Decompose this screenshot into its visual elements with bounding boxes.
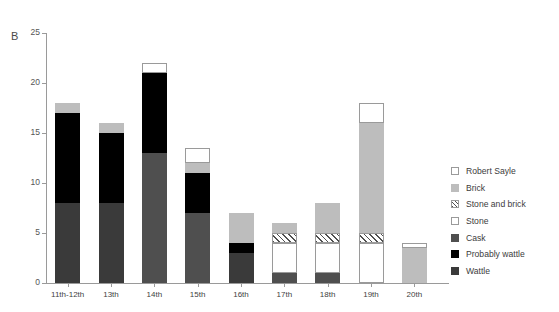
y-tick-label: 10: [20, 177, 40, 188]
legend-label: Stone and brick: [466, 199, 526, 209]
bar-segment-brick[interactable]: [55, 103, 80, 113]
legend-swatch-cask-icon: [451, 234, 459, 242]
y-tick-label: 5: [20, 227, 40, 238]
bar-segment-stone[interactable]: [185, 148, 210, 163]
y-tick-mark: [42, 133, 46, 134]
bar-segment-cask[interactable]: [272, 273, 297, 283]
legend-item-wattle[interactable]: Wattle: [451, 263, 526, 280]
x-tick-mark: [154, 283, 155, 287]
y-tick-mark: [42, 33, 46, 34]
x-tick-mark: [371, 283, 372, 287]
bar-segment-wattle[interactable]: [99, 203, 124, 283]
bar-segment-stone[interactable]: [359, 243, 384, 283]
bar-segment-brick[interactable]: [315, 203, 340, 233]
legend-swatch-probably-wattle-icon: [451, 250, 459, 258]
bar-19th[interactable]: [359, 33, 384, 283]
y-tick-mark: [42, 83, 46, 84]
y-tick-label: 15: [20, 127, 40, 138]
bar-13th[interactable]: [99, 33, 124, 283]
x-tick-mark: [111, 283, 112, 287]
legend-item-brick[interactable]: Brick: [451, 180, 526, 197]
bar-segment-cask[interactable]: [185, 213, 210, 283]
legend-label: Stone: [466, 216, 488, 226]
panel-label: B: [11, 30, 19, 42]
plot-area: 0510152025: [46, 33, 436, 283]
x-axis-line: [46, 283, 449, 284]
bar-segment-robert-sayle[interactable]: [359, 103, 384, 123]
y-tick-mark: [42, 283, 46, 284]
legend-item-cask[interactable]: Cask: [451, 229, 526, 246]
bar-segment-brick[interactable]: [402, 248, 427, 283]
bar-segment-stone[interactable]: [315, 243, 340, 273]
bar-20th[interactable]: [402, 33, 427, 283]
chart-panel: B 0510152025 11th-12th13th14th15th16th17…: [0, 0, 559, 312]
legend-item-stone[interactable]: Stone: [451, 213, 526, 230]
bar-segment-brick[interactable]: [185, 163, 210, 173]
bar-segment-stone-and-brick[interactable]: [359, 233, 384, 243]
bar-15th[interactable]: [185, 33, 210, 283]
y-tick-mark: [42, 183, 46, 184]
legend-swatch-brick-icon: [451, 184, 459, 192]
bar-17th[interactable]: [272, 33, 297, 283]
y-tick-label: 20: [20, 77, 40, 88]
bar-16th[interactable]: [229, 33, 254, 283]
x-tick-mark: [241, 283, 242, 287]
bar-segment-brick[interactable]: [272, 223, 297, 233]
legend-swatch-stone-icon: [451, 217, 459, 225]
bar-11th-12th[interactable]: [55, 33, 80, 283]
bar-segment-stone[interactable]: [272, 243, 297, 273]
bar-segment-probably-wattle[interactable]: [99, 133, 124, 203]
bar-segment-probably-wattle[interactable]: [142, 73, 167, 153]
bar-segment-probably-wattle[interactable]: [229, 243, 254, 253]
bar-segment-cask[interactable]: [142, 153, 167, 283]
bar-segment-probably-wattle[interactable]: [185, 173, 210, 213]
legend-label: Cask: [466, 233, 486, 243]
bar-segment-brick[interactable]: [359, 123, 384, 233]
y-tick-label: 25: [20, 27, 40, 38]
bar-segment-probably-wattle[interactable]: [55, 113, 80, 203]
bar-segment-stone-and-brick[interactable]: [315, 233, 340, 243]
bar-segment-robert-sayle[interactable]: [402, 243, 427, 248]
x-tick-mark: [198, 283, 199, 287]
legend-item-probably-wattle[interactable]: Probably wattle: [451, 246, 526, 263]
bar-18th[interactable]: [315, 33, 340, 283]
legend-item-stone-and-brick[interactable]: Stone and brick: [451, 196, 526, 213]
bar-14th[interactable]: [142, 33, 167, 283]
bar-segment-stone-cap[interactable]: [142, 63, 167, 73]
x-tick-mark: [284, 283, 285, 287]
legend-item-robert-sayle[interactable]: Robert Sayle: [451, 163, 526, 180]
x-tick-mark: [414, 283, 415, 287]
legend-label: Probably wattle: [466, 249, 525, 259]
legend: Robert SayleBrickStone and brickStoneCas…: [451, 163, 526, 279]
y-tick-mark: [42, 233, 46, 234]
bar-segment-brick[interactable]: [229, 213, 254, 243]
bar-segment-wattle[interactable]: [229, 253, 254, 283]
x-tick-mark: [328, 283, 329, 287]
bar-segment-stone-and-brick[interactable]: [272, 233, 297, 243]
x-tick-label: 20th: [384, 290, 444, 300]
legend-label: Wattle: [466, 266, 490, 276]
legend-swatch-robert-sayle-icon: [451, 167, 459, 175]
legend-swatch-stone-and-brick-icon: [451, 200, 459, 208]
x-tick-mark: [68, 283, 69, 287]
legend-label: Brick: [466, 183, 485, 193]
bar-segment-brick[interactable]: [99, 123, 124, 133]
legend-label: Robert Sayle: [466, 166, 516, 176]
legend-swatch-wattle-icon: [451, 267, 459, 275]
bar-segment-cask[interactable]: [315, 273, 340, 283]
bar-segment-wattle[interactable]: [55, 203, 80, 283]
y-tick-label: 0: [20, 277, 40, 288]
